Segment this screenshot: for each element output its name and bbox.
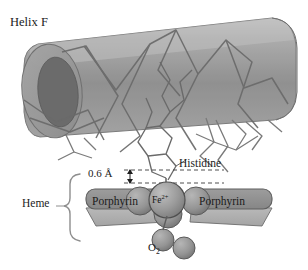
oxygen-sphere-2: [173, 237, 195, 259]
label-oxygen: O2: [148, 242, 160, 256]
side-chain-lines-left: [58, 135, 96, 160]
label-helix-f: Helix F: [10, 16, 48, 29]
label-iron: Fe2+: [152, 194, 168, 206]
helix-f-cylinder: [17, 18, 297, 141]
figure-canvas: Helix F 0.6 Å Histidine Heme Porphyrin P…: [0, 0, 308, 270]
label-porphyrin-left: Porphyrin: [92, 196, 138, 208]
label-histidine: Histidine: [179, 158, 221, 170]
diagram-svg: [0, 0, 308, 270]
label-heme: Heme: [22, 198, 49, 210]
label-distance: 0.6 Å: [88, 168, 112, 179]
heme-brace-icon: [64, 174, 80, 241]
iron-charge: 2+: [162, 193, 169, 200]
iron-symbol: Fe: [152, 195, 162, 205]
label-porphyrin-right: Porphyrin: [199, 196, 245, 208]
oxygen-subscript: 2: [156, 247, 160, 256]
oxygen-symbol: O: [148, 241, 156, 253]
distance-marker: [124, 169, 224, 184]
